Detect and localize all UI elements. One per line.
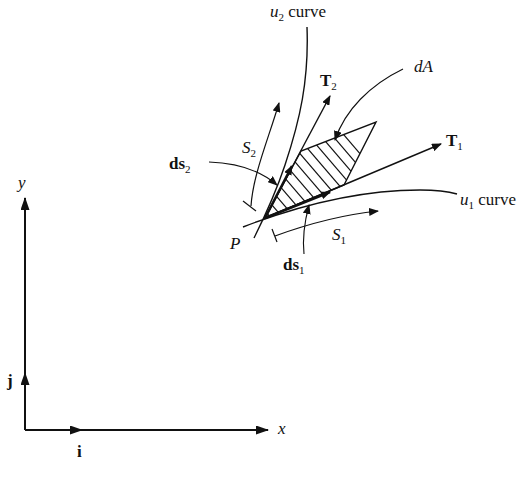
coordinate-axes: y x j i xyxy=(6,173,286,461)
T2-label: T2 xyxy=(320,71,337,92)
y-axis-label: y xyxy=(16,173,26,192)
ds1-leader xyxy=(303,205,309,254)
ds2-label: ds2 xyxy=(169,154,191,175)
S2-label: S2 xyxy=(242,138,256,159)
ds1-vector xyxy=(265,192,330,218)
i-vector-label: i xyxy=(77,442,82,461)
u2-curve xyxy=(254,27,307,238)
S1-arc xyxy=(272,211,378,242)
j-vector-label: j xyxy=(6,371,13,390)
ds2-leader xyxy=(209,162,277,185)
T1-label: T1 xyxy=(446,131,463,152)
diagram-canvas: y x j i xyxy=(0,0,531,484)
point-P-label: P xyxy=(229,234,240,253)
S1-label: S1 xyxy=(332,225,346,246)
dA-label: dA xyxy=(414,57,434,76)
x-axis-label: x xyxy=(277,419,286,438)
u2-curve-label: u2 curve xyxy=(270,2,326,23)
dA-leader xyxy=(335,69,403,140)
ds1-label: ds1 xyxy=(283,255,305,276)
u1-curve-label: u1 curve xyxy=(460,190,516,211)
